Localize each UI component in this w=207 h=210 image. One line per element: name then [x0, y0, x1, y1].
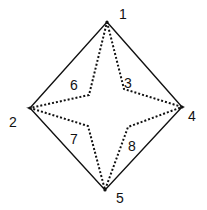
label-2: 2 [9, 114, 17, 130]
outer-diamond [30, 22, 182, 190]
label-6: 6 [70, 77, 78, 93]
vertex-4-dot [180, 105, 183, 108]
label-3: 3 [124, 75, 132, 91]
inner-dotted-star [30, 22, 182, 190]
diamond-star-diagram: 1 2 3 4 5 6 7 8 [0, 0, 207, 210]
label-5: 5 [116, 190, 124, 206]
label-8: 8 [128, 138, 136, 154]
label-4: 4 [188, 108, 196, 124]
label-7: 7 [70, 131, 78, 147]
vertex-1-dot [105, 20, 108, 23]
vertex-2-dot [28, 106, 31, 109]
vertex-5-dot [103, 188, 106, 191]
label-1: 1 [119, 6, 127, 22]
